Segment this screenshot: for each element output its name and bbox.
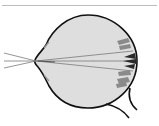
eye-diagram bbox=[0, 0, 159, 126]
